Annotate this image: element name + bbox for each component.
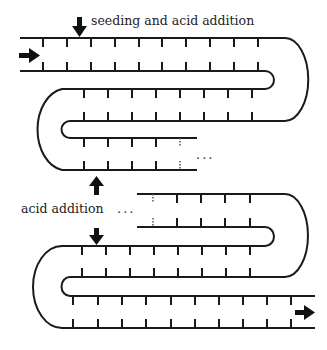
segment-5-ticks	[82, 246, 250, 277]
seeding-down-arrow-icon	[72, 17, 87, 37]
serpentine-channel-diagram: ... ...	[0, 0, 327, 350]
channel-wall-outer-upper	[20, 38, 308, 121]
ellipsis-lower: ...	[117, 201, 135, 216]
upper-serpentine: ...	[20, 38, 308, 170]
acid-in-down-arrow-icon	[89, 228, 104, 245]
acid-addition-label: acid addition	[21, 201, 103, 216]
segment-1-ticks	[43, 38, 258, 71]
segment-6-ticks	[73, 296, 291, 328]
segment-3-ticks	[84, 138, 180, 170]
inlet-arrow-icon	[19, 48, 40, 63]
acid-out-up-arrow-icon	[89, 176, 104, 195]
segment-2-ticks	[84, 89, 252, 121]
segment-4-ticks	[153, 194, 250, 227]
outlet-arrow-icon	[295, 305, 315, 320]
channel-wall-inner-left-bend	[62, 121, 286, 138]
ellipsis-upper: ...	[196, 147, 214, 162]
seeding-and-acid-addition-label: seeding and acid addition	[91, 13, 254, 28]
